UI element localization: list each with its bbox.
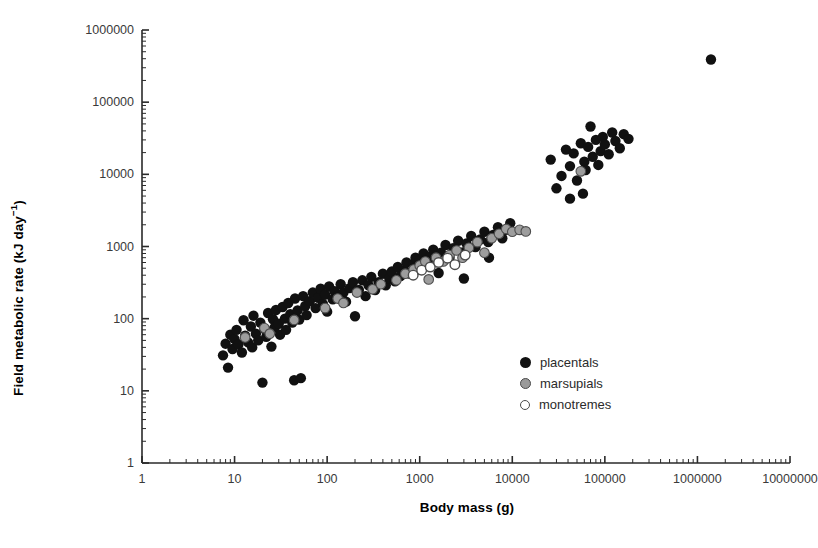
data-point	[339, 298, 349, 308]
x-tick-label: 1000	[406, 472, 434, 486]
data-point	[376, 279, 386, 289]
legend-label: monotremes	[539, 398, 611, 411]
data-point	[623, 134, 633, 144]
chart-legend: placentalsmarsupialsmonotremes	[520, 352, 611, 415]
series-placentals	[218, 54, 716, 388]
x-tick-label: 10000	[495, 472, 530, 486]
y-tick-label: 1000	[70, 240, 134, 254]
data-point	[600, 139, 610, 149]
y-tick-label: 1000000	[70, 23, 134, 37]
data-point	[473, 237, 483, 247]
data-point	[603, 149, 613, 159]
data-point	[706, 54, 716, 64]
x-tick-label: 100	[317, 472, 338, 486]
data-point	[565, 193, 575, 203]
x-tick-label: 10	[228, 472, 242, 486]
data-point	[565, 161, 575, 171]
data-point	[615, 143, 625, 153]
data-point	[240, 333, 250, 343]
data-point	[578, 188, 588, 198]
legend-marker-open-circle-icon	[520, 400, 530, 410]
data-point	[551, 183, 561, 193]
data-point	[546, 154, 556, 164]
data-point	[231, 325, 241, 335]
data-point	[392, 276, 402, 286]
y-tick-label: 100	[70, 312, 134, 326]
data-point	[572, 175, 582, 185]
data-point	[223, 362, 233, 372]
y-tick-label: 1	[70, 456, 134, 470]
data-point	[424, 275, 434, 285]
x-tick-label: 100000	[584, 472, 626, 486]
data-point	[350, 311, 360, 321]
y-tick-label: 10	[70, 384, 134, 398]
y-axis-ticks	[142, 30, 149, 463]
data-point	[568, 148, 578, 158]
data-point	[583, 142, 593, 152]
data-point	[237, 347, 247, 357]
data-point	[459, 273, 469, 283]
data-point	[289, 315, 299, 325]
y-tick-label: 10000	[70, 167, 134, 181]
legend-item-marsupials: marsupials	[520, 373, 611, 394]
legend-label: placentals	[540, 356, 599, 369]
data-point	[301, 310, 311, 320]
data-point	[434, 258, 444, 268]
x-tick-label: 1	[139, 472, 146, 486]
legend-item-monotremes: monotremes	[520, 394, 611, 415]
data-point	[296, 373, 306, 383]
data-point	[352, 288, 362, 298]
data-point	[257, 377, 267, 387]
legend-label: marsupials	[540, 377, 603, 390]
x-tick-label: 10000000	[762, 472, 818, 486]
data-point	[576, 167, 586, 177]
x-axis-ticks	[142, 456, 790, 463]
data-point	[593, 160, 603, 170]
data-point	[450, 260, 460, 270]
data-point	[320, 303, 330, 313]
data-point	[460, 250, 470, 260]
data-point	[266, 341, 276, 351]
data-point	[218, 350, 228, 360]
data-point	[585, 121, 595, 131]
data-points-layer	[218, 54, 716, 388]
x-tick-label: 1000000	[673, 472, 722, 486]
data-point	[480, 248, 490, 258]
data-point	[556, 171, 566, 181]
data-point	[265, 329, 275, 339]
legend-item-placentals: placentals	[520, 352, 611, 373]
y-tick-label: 100000	[70, 95, 134, 109]
legend-marker-filled-circle-icon	[520, 357, 531, 368]
legend-marker-gray-circle-icon	[520, 378, 531, 389]
data-point	[521, 227, 531, 237]
